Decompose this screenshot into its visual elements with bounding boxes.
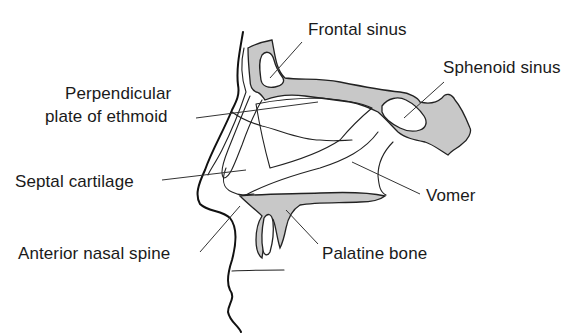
label-frontal-sinus: Frontal sinus [308,20,407,40]
perpendicular-plate-outline [256,98,372,168]
label-perpendicular-plate-line1: Perpendicular [65,84,171,104]
incisor-root [262,215,273,255]
vomer-posterior-outline [378,142,393,195]
label-palatine-bone: Palatine bone [322,244,427,264]
label-anterior-nasal-spine: Anterior nasal spine [18,244,170,264]
nasal-septum-diagram [0,0,587,334]
leader-perpendicular-plate [196,102,318,118]
leader-palatine-bone [286,210,318,244]
upper-lip-line [232,270,284,271]
vomer-anterior-line [244,132,378,196]
septal-cartilage-border [232,112,352,141]
leader-vomer [352,162,420,194]
label-sphenoid-sinus: Sphenoid sinus [443,58,561,78]
frontal-sinus-cavity [260,52,284,87]
label-septal-cartilage: Septal cartilage [15,172,134,192]
face-profile-outline [198,32,243,332]
cranial-bone-band [248,40,471,155]
nasal-bone-line [208,48,246,175]
label-vomer: Vomer [426,186,476,206]
label-perpendicular-plate-line2: plate of ethmoid [45,107,168,127]
